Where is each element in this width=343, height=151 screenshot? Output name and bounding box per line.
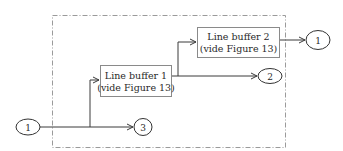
line-buffer-2-block: Line buffer 2 (vide Figure 13) — [198, 28, 280, 58]
line-buffer-1-ref: (vide Figure 13) — [97, 82, 175, 93]
line-buffer-1-block: Line buffer 1 (vide Figure 13) — [97, 66, 175, 97]
line-buffer-2-ref: (vide Figure 13) — [200, 43, 278, 54]
output-node-3: 3 — [134, 119, 152, 136]
output-node-3-label: 3 — [140, 123, 146, 133]
block-diagram: Line buffer 1 (vide Figure 13) Line buff… — [0, 0, 343, 151]
line-buffer-2-title: Line buffer 2 — [207, 31, 269, 42]
output-node-2-label: 2 — [267, 72, 273, 82]
input-node-1-label: 1 — [25, 123, 31, 133]
output-node-1: 1 — [306, 31, 330, 50]
edge-line-buffer-1-to-line-buffer-2 — [178, 42, 196, 76]
line-buffer-1-title: Line buffer 1 — [105, 70, 167, 81]
input-node-1: 1 — [16, 119, 40, 135]
output-node-1-label: 1 — [315, 36, 321, 46]
output-node-2: 2 — [258, 69, 282, 84]
